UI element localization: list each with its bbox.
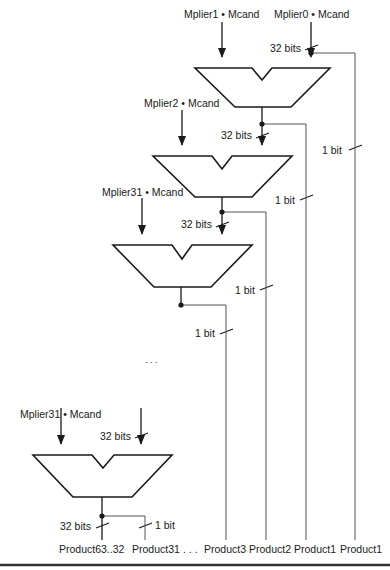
ellipsis: . . . xyxy=(145,356,158,365)
width-label: 32 bits xyxy=(221,130,252,141)
multiplier-diagram xyxy=(0,0,390,570)
output-label: Product3 xyxy=(204,544,246,555)
tap-width-label: 1 bit xyxy=(322,145,342,156)
tap-width-label: 1 bit xyxy=(195,328,215,339)
adder-last xyxy=(33,455,172,497)
input-label-mplier0: Mplier0 • Mcand xyxy=(274,9,349,20)
output-label: Product1 xyxy=(294,544,336,555)
width-label: 32 bits xyxy=(100,431,131,442)
output-label: Product63..32 xyxy=(59,544,124,555)
wire-product31 xyxy=(102,516,145,540)
output-label: Product2 xyxy=(249,544,291,555)
input-label-mplier1: Mplier1 • Mcand xyxy=(184,9,259,20)
tap-width-label: 1 bit xyxy=(235,285,255,296)
adder-3 xyxy=(113,245,252,287)
output-ellipsis: . . . xyxy=(183,544,198,555)
width-label: 32 bits xyxy=(270,43,301,54)
output-label: Product1 xyxy=(340,544,382,555)
wire-product1-a xyxy=(311,53,355,540)
width-label: 32 bits xyxy=(181,219,212,230)
input-label-mplier2: Mplier2 • Mcand xyxy=(144,98,219,109)
wire-product1-b xyxy=(262,124,306,540)
input-label-mplier31-last: Mplier31 • Mcand xyxy=(20,409,101,420)
output-label: Product31 xyxy=(132,544,180,555)
tap-width-label: 1 bit xyxy=(155,520,175,531)
width-label: 32 bits xyxy=(60,521,91,532)
input-label-mplier31: Mplier31 • Mcand xyxy=(102,187,183,198)
wire-product3 xyxy=(181,305,226,540)
tap-width-label: 1 bit xyxy=(275,195,295,206)
